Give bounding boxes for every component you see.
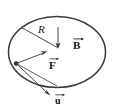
physics-vector-diagram: R B F u <box>0 0 115 112</box>
field-vector-label: B <box>73 36 84 51</box>
force-vector-shaft <box>16 53 45 64</box>
radius-label: R <box>38 24 45 35</box>
velocity-vector-label: u <box>55 92 65 106</box>
force-vector-label: F <box>49 56 59 71</box>
force-vector-letter: F <box>49 60 59 71</box>
velocity-vector-letter: u <box>55 96 65 106</box>
current-loop-ellipse <box>9 17 106 88</box>
field-vector-letter: B <box>73 40 84 51</box>
